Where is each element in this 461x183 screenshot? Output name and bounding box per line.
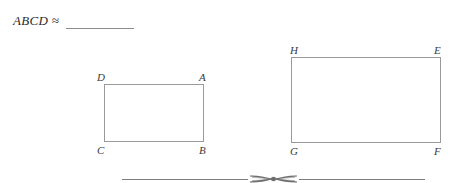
- divider-line-right: [299, 179, 425, 180]
- worksheet-page: ABCD ≈ D A C B H E G F: [0, 0, 461, 183]
- vertex-label-h: H: [290, 45, 298, 56]
- scissors-icon: [248, 174, 299, 183]
- divider-line-left: [122, 179, 248, 180]
- vertex-label-e: E: [434, 45, 441, 56]
- cut-line-divider: [122, 174, 425, 183]
- vertex-label-a: A: [199, 72, 206, 83]
- vertex-label-d: D: [97, 72, 105, 83]
- page-title: ABCD ≈: [13, 13, 59, 29]
- vertex-label-b: B: [199, 145, 206, 156]
- vertex-label-g: G: [290, 146, 298, 157]
- rectangle-abcd: [104, 84, 204, 142]
- vertex-label-c: C: [97, 145, 104, 156]
- vertex-label-f: F: [434, 146, 441, 157]
- rectangle-efgh: [291, 57, 441, 143]
- answer-blank[interactable]: [66, 28, 134, 29]
